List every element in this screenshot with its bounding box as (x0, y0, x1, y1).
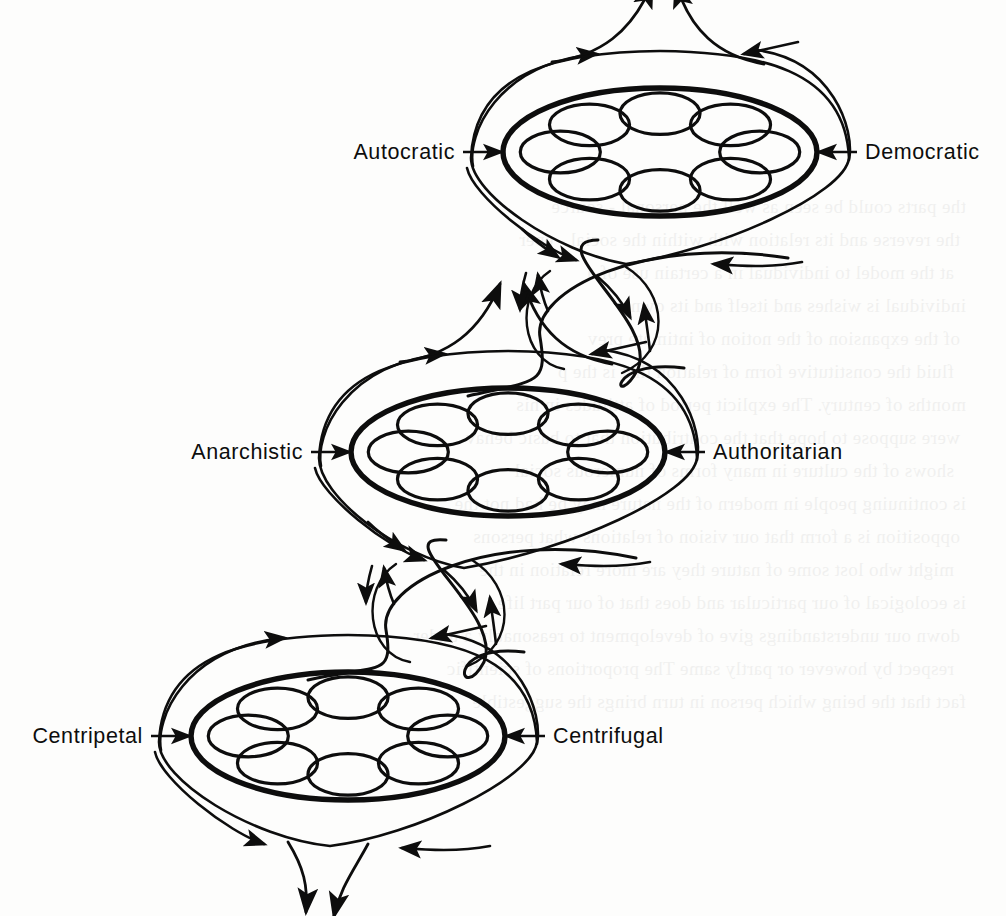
ring-cell (308, 754, 388, 796)
helix-arrow-up-left (538, 275, 548, 311)
ring-outer-boundary (351, 388, 665, 516)
ring-cell (620, 93, 700, 135)
flow-arrow-lower-right (562, 562, 650, 566)
helix-cycle-diagram: AutocraticDemocraticAnarchisticAuthorita… (0, 0, 1006, 916)
ring-cell (620, 170, 700, 212)
helix-arrow-in-left (522, 229, 558, 257)
helix-inner-arc-left (373, 564, 410, 662)
flow-exit-arrow-bottom-right (334, 844, 368, 916)
ring-cell (468, 393, 548, 435)
flow-exit-arrow-top-left (400, 284, 500, 362)
ring-label-right: Centrifugal (553, 724, 664, 748)
helix-arrow-in-left (368, 522, 404, 550)
helix-arrow-down-right (598, 277, 630, 317)
flow-arrow-lower-right (402, 846, 490, 850)
helix-2 (308, 522, 636, 680)
ring-label-left: Anarchistic (191, 440, 303, 464)
ring-cell (468, 470, 548, 512)
figure-page: the parts could be seen as well the pers… (0, 0, 1006, 916)
helix-arrow-down-left (366, 566, 372, 602)
helix-arrow-down-right (444, 570, 476, 610)
ring-top-labels: AutocraticDemocratic (353, 140, 979, 164)
ring-label-left: Autocratic (353, 140, 455, 164)
ring-labels-group: AutocraticDemocraticAnarchisticAuthorita… (32, 140, 979, 748)
ring-outer-boundary (191, 672, 505, 800)
flow-outline-top (471, 51, 849, 158)
ring-bottom-labels: CentripetalCentrifugal (32, 724, 663, 748)
ring-outer-boundary (503, 88, 817, 216)
flow-arrow-lower-right (714, 262, 802, 266)
ring-label-left: Centripetal (32, 724, 143, 748)
helix-1 (468, 229, 788, 396)
ring-label-right: Authoritarian (713, 440, 843, 464)
helix-arrow-up-right (644, 305, 650, 351)
ring-middle-labels: AnarchisticAuthoritarian (191, 440, 842, 464)
ring-top (467, 0, 850, 266)
flow-exit-arrow-bottom-left (288, 842, 306, 912)
ring-label-right: Democratic (865, 140, 980, 164)
flow-outline-top (159, 635, 537, 742)
ring-cell (308, 677, 388, 719)
helix-arrow-up-left (384, 568, 394, 604)
helix-arrow-up-right (490, 598, 496, 644)
